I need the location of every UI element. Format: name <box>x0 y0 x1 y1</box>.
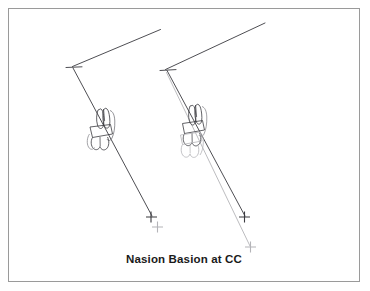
left-landmark-cross-dark <box>146 212 157 223</box>
right-tracing-panel <box>160 23 265 253</box>
figure-caption: Nasion Basion at CC <box>8 253 360 265</box>
left-landmark-cross-gray <box>152 222 163 233</box>
right-occlusal-axis-line-gray <box>167 73 251 247</box>
right-vertex-tick-icon <box>160 70 176 71</box>
cephalometric-tracing-canvas <box>0 0 370 291</box>
left-tooth-cluster <box>87 108 115 150</box>
right-landmark-cross-dark <box>239 212 250 223</box>
figure-root: Nasion Basion at CC <box>0 0 370 291</box>
left-occlusal-axis-line <box>73 68 152 216</box>
right-landmark-cross-gray <box>245 242 256 253</box>
right-occlusal-axis-line-dark <box>167 71 245 217</box>
left-vertex-tick-icon <box>66 67 82 68</box>
left-tracing-panel <box>66 30 163 233</box>
left-nasion-basion-line <box>73 30 161 67</box>
right-nasion-basion-line <box>166 23 266 70</box>
